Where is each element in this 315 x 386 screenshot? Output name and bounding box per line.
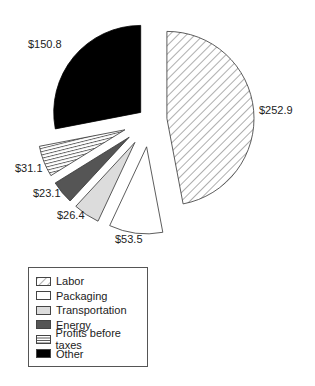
- legend-item-packaging: Packaging: [36, 289, 147, 304]
- legend: Labor Packaging Transportation Energy Pr…: [28, 267, 148, 367]
- white-swatch-icon: [36, 291, 51, 300]
- dark-gray-swatch-icon: [36, 320, 51, 329]
- label-labor: $252.9: [259, 104, 293, 116]
- legend-label: Packaging: [56, 290, 107, 302]
- label-transportation: $26.4: [57, 209, 85, 221]
- legend-label: Labor: [56, 275, 84, 287]
- slice-packaging: [110, 147, 163, 234]
- label-energy: $23.1: [33, 187, 61, 199]
- slice-other: [54, 25, 141, 128]
- legend-label: Other: [56, 348, 84, 360]
- diagonal-hatch-swatch-icon: [36, 277, 51, 286]
- legend-item-transportation: Transportation: [36, 303, 147, 318]
- legend-label: Transportation: [56, 304, 127, 316]
- legend-item-labor: Labor: [36, 274, 147, 289]
- light-gray-swatch-icon: [36, 306, 51, 315]
- legend-item-profits: Profits before taxes: [36, 332, 147, 347]
- label-profits: $31.1: [15, 162, 43, 174]
- label-packaging: $53.5: [115, 233, 143, 245]
- label-other: $150.8: [28, 38, 62, 50]
- horizontal-hatch-swatch-icon: [36, 335, 51, 344]
- slice-labor: [167, 31, 254, 204]
- black-swatch-icon: [36, 349, 51, 358]
